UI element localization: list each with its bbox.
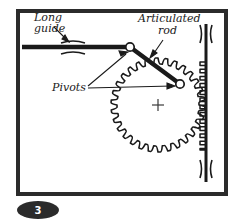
pivot-left bbox=[126, 43, 134, 51]
diagram-frame bbox=[18, 11, 226, 194]
pivot-right bbox=[176, 80, 184, 88]
long-guide-label-line2: guide bbox=[34, 22, 66, 35]
figure-number-badge: 3 bbox=[17, 201, 59, 219]
mechanism-diagram: Long guide Articulated rod Pivots 3 bbox=[0, 0, 238, 223]
articulated-rod-label-line2: rod bbox=[158, 24, 177, 37]
figure-root: Long guide Articulated rod Pivots 3 bbox=[0, 0, 238, 223]
badge-number-label: 3 bbox=[35, 205, 42, 216]
pivots-label: Pivots bbox=[51, 81, 86, 94]
